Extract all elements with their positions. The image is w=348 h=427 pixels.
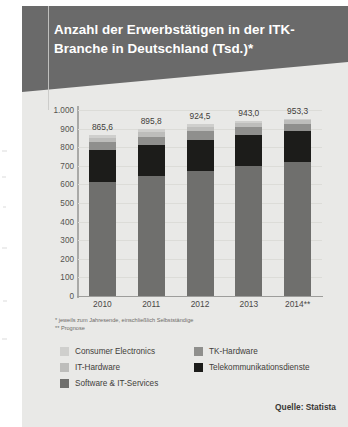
- bar-segment: [138, 132, 165, 136]
- bar-segment: [89, 182, 116, 296]
- footnote-1: * jeweils zum Jahresende, einschließlich…: [55, 317, 305, 325]
- bar-2011: [138, 129, 165, 296]
- legend-swatch-icon: [60, 363, 69, 372]
- y-axis-tick-label: 400: [28, 217, 74, 226]
- x-axis-tick-label: 2013: [223, 299, 275, 309]
- y-axis-tick-label: 0: [28, 292, 74, 301]
- plot-area: 865,6895,8924,5943,0953,3: [78, 110, 322, 296]
- banner-divider: [48, 6, 49, 110]
- footnotes: * jeweils zum Jahresende, einschließlich…: [55, 317, 305, 332]
- bar-value-label: 895,8: [126, 116, 176, 126]
- page-margin-mark: [3, 206, 6, 208]
- page-margin-mark: [2, 247, 7, 249]
- y-axis-tick-label: 300: [28, 236, 74, 245]
- bar-segment: [235, 135, 262, 166]
- legend-swatch-icon: [60, 347, 69, 356]
- x-axis-tick-label: 2014**: [272, 299, 324, 309]
- legend-label: IT-Hardware: [75, 363, 120, 372]
- legend-swatch-icon: [194, 363, 203, 372]
- bar-segment: [187, 127, 214, 131]
- bar-segment: [138, 129, 165, 132]
- bar-segment: [235, 166, 262, 296]
- y-axis-tick-label: 1.000: [28, 106, 74, 115]
- bar-segment: [235, 123, 262, 127]
- bar-segment: [284, 124, 311, 132]
- bar-segment: [89, 138, 116, 142]
- bar-segment: [89, 142, 116, 150]
- chart-legend: Consumer ElectronicsTK-HardwareIT-Hardwa…: [42, 347, 342, 395]
- footnote-2: ** Prognose: [55, 325, 305, 333]
- bar-segment: [187, 140, 214, 171]
- bar-segment: [138, 137, 165, 145]
- page-margin-mark: [2, 150, 7, 152]
- y-axis-tick-label: 700: [28, 161, 74, 170]
- bar-segment: [284, 119, 311, 121]
- y-axis-tick-label: 900: [28, 124, 74, 133]
- bar-value-label: 924,5: [175, 111, 225, 121]
- bar-segment: [187, 131, 214, 140]
- legend-label: Consumer Electronics: [75, 347, 155, 356]
- bar-segment: [235, 127, 262, 135]
- x-axis-line: [77, 296, 323, 297]
- x-axis-tick-label: 2011: [125, 299, 177, 309]
- bar-2010: [89, 135, 116, 296]
- y-axis-tick-labels: 1.0009008007006005004003002001000: [26, 110, 74, 296]
- legend-label: TK-Hardware: [209, 347, 258, 356]
- bar-segment: [284, 131, 311, 162]
- bar-segment: [284, 120, 311, 123]
- bar-segment: [187, 171, 214, 296]
- bar-segment: [235, 121, 262, 123]
- page-title: Anzahl der Erwerbstätigen in der ITK-Bra…: [54, 20, 334, 58]
- legend-label: Software & IT-Services: [75, 379, 158, 388]
- legend-swatch-icon: [194, 347, 203, 356]
- bar-2012: [187, 124, 214, 296]
- bar-segment: [89, 135, 116, 138]
- legend-item[interactable]: Consumer Electronics: [60, 347, 155, 356]
- y-axis-tick-label: 500: [28, 199, 74, 208]
- bar-value-label: 865,6: [77, 122, 127, 132]
- bar-2014: [284, 119, 311, 296]
- bar-value-label: 953,3: [273, 106, 323, 116]
- bar-segment: [138, 176, 165, 296]
- statista-chart-card: Anzahl der Erwerbstätigen in der ITK-Bra…: [22, 6, 348, 427]
- bar-segment: [187, 124, 214, 127]
- page-margin-mark: [2, 338, 7, 340]
- legend-item[interactable]: TK-Hardware: [194, 347, 258, 356]
- source-label: Quelle: Statista: [275, 402, 336, 412]
- bar-value-label: 943,0: [224, 108, 274, 118]
- y-axis-tick-label: 100: [28, 273, 74, 282]
- bar-segment: [284, 162, 311, 296]
- page-margin-mark: [3, 300, 7, 302]
- page-margin-mark: [2, 176, 6, 178]
- y-axis-tick-label: 600: [28, 180, 74, 189]
- legend-item[interactable]: IT-Hardware: [60, 363, 120, 372]
- legend-item[interactable]: Telekommunikationsdienste: [194, 363, 310, 372]
- x-axis-tick-label: 2010: [76, 299, 128, 309]
- legend-item[interactable]: Software & IT-Services: [60, 379, 158, 388]
- y-axis-tick-label: 200: [28, 254, 74, 263]
- x-axis-tick-label: 2012: [174, 299, 226, 309]
- bar-segment: [89, 150, 116, 181]
- y-axis-tick-label: 800: [28, 143, 74, 152]
- bar-2013: [235, 121, 262, 296]
- legend-swatch-icon: [60, 379, 69, 388]
- legend-label: Telekommunikationsdienste: [209, 363, 310, 372]
- bar-segment: [138, 145, 165, 176]
